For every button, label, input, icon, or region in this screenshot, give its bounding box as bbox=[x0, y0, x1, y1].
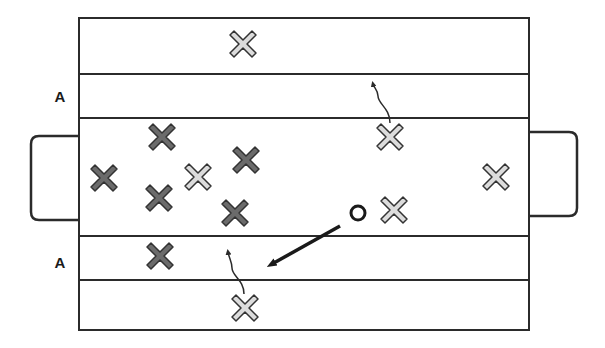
defender-x-icon bbox=[233, 147, 259, 173]
defender-x-icon bbox=[147, 243, 173, 269]
defenders bbox=[91, 124, 259, 269]
attacker-x-icon bbox=[483, 164, 509, 190]
zone-label-a: A bbox=[50, 89, 70, 105]
right-goal bbox=[529, 132, 577, 216]
run-arrow bbox=[228, 252, 244, 294]
left-goal bbox=[31, 136, 79, 220]
ball-icon bbox=[351, 206, 365, 220]
run-arrows bbox=[228, 84, 390, 294]
attacker-x-icon bbox=[185, 164, 211, 190]
zone-label-a: A bbox=[50, 255, 70, 271]
attacker-x-icon bbox=[230, 31, 256, 57]
zone-lines bbox=[79, 74, 529, 280]
attacker-x-icon bbox=[232, 295, 258, 321]
attacker-x-icon bbox=[377, 124, 403, 150]
defender-x-icon bbox=[91, 165, 117, 191]
drill-diagram bbox=[0, 0, 605, 348]
defender-x-icon bbox=[222, 200, 248, 226]
pass-arrow bbox=[272, 226, 340, 264]
defender-x-icon bbox=[146, 185, 172, 211]
defender-x-icon bbox=[149, 124, 175, 150]
attacker-x-icon bbox=[381, 197, 407, 223]
field-outline bbox=[79, 18, 529, 330]
